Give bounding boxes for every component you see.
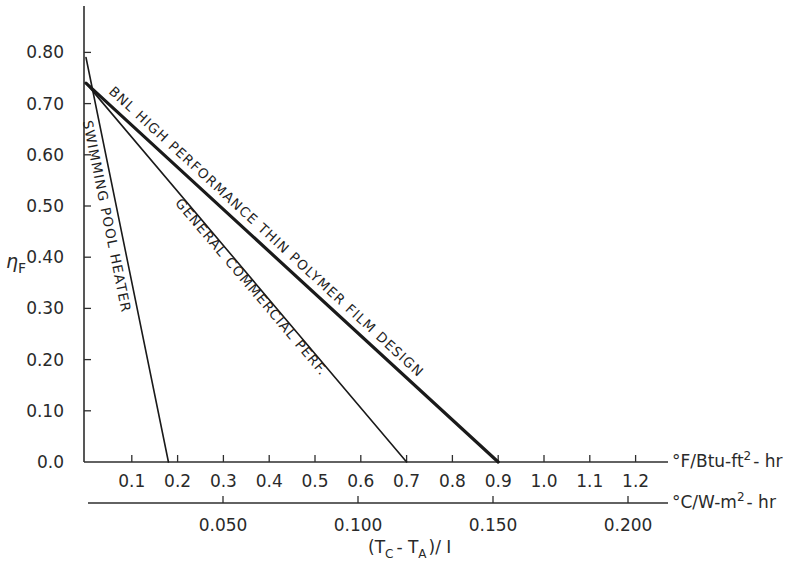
svg-text:°C/W-m2- hr: °C/W-m2- hr: [672, 490, 776, 512]
x-primary-tick-label: 0.8: [439, 471, 466, 491]
unit-secondary-sup: 2: [737, 490, 745, 504]
x-primary-tick-label: 1.0: [530, 471, 557, 491]
unit-label-primary: °F/Btu-ft2- hr: [672, 449, 783, 471]
x-primary-tick-label: 0.2: [164, 471, 191, 491]
unit-primary-main: °F/Btu-ft: [672, 451, 744, 471]
y-tick-label: 0.80: [26, 42, 64, 62]
unit-secondary-main: °C/W-m: [672, 492, 737, 512]
y-tick-label: 0.0: [37, 452, 64, 472]
y-axis-title: η F: [6, 250, 26, 276]
series-label: BNL HIGH PERFORMANCE THIN POLYMER FILM D…: [106, 83, 427, 380]
x-primary-tick-label: 1.1: [576, 471, 603, 491]
x-primary-tick-label: 0.9: [485, 471, 512, 491]
x-primary-tick-label: 0.3: [210, 471, 237, 491]
y-tick-label: 0.60: [26, 145, 64, 165]
x-title-close: )/ I: [429, 537, 452, 557]
y-tick-label: 0.70: [26, 94, 64, 114]
y-tick-label: 0.30: [26, 298, 64, 318]
x-title-sub-c: C: [385, 547, 393, 561]
y-axis-symbol: η: [6, 250, 18, 272]
y-tick-label: 0.40: [26, 247, 64, 267]
series-line-bnl-high-performance-thin-polymer-film-design: [86, 83, 498, 462]
x-secondary-tick-label: 0.150: [469, 515, 518, 535]
x-primary-tick-label: 1.2: [622, 471, 649, 491]
y-tick-label: 0.20: [26, 350, 64, 370]
x-title-sub-a: A: [418, 547, 427, 561]
y-axis-subscript: F: [18, 260, 26, 276]
x-title-mid: - T: [396, 537, 419, 557]
x-secondary-tick-label: 0.100: [334, 515, 383, 535]
x-axis-title: (TC- TA)/ I: [368, 537, 451, 561]
svg-text:°F/Btu-ft2- hr: °F/Btu-ft2- hr: [672, 449, 783, 471]
svg-text:(TC- TA)/ I: (TC- TA)/ I: [368, 537, 451, 561]
x-primary-tick-label: 0.1: [118, 471, 145, 491]
efficiency-chart: 0.00.100.200.300.400.500.600.700.800.10.…: [0, 0, 812, 568]
y-tick-label: 0.50: [26, 196, 64, 216]
series-label: SWIMMING POOL HEATER: [80, 119, 135, 315]
unit-primary-sup: 2: [744, 449, 752, 463]
unit-label-secondary: °C/W-m2- hr: [672, 490, 776, 512]
x-primary-tick-label: 0.4: [256, 471, 283, 491]
x-title-open: (T: [368, 537, 386, 557]
y-tick-label: 0.10: [26, 401, 64, 421]
x-primary-tick-label: 0.7: [393, 471, 420, 491]
x-primary-tick-label: 0.5: [301, 471, 328, 491]
unit-primary-tail: - hr: [753, 451, 782, 471]
x-primary-tick-label: 0.6: [347, 471, 374, 491]
unit-secondary-tail: - hr: [747, 492, 776, 512]
x-secondary-tick-label: 0.050: [199, 515, 248, 535]
x-secondary-tick-label: 0.200: [604, 515, 653, 535]
